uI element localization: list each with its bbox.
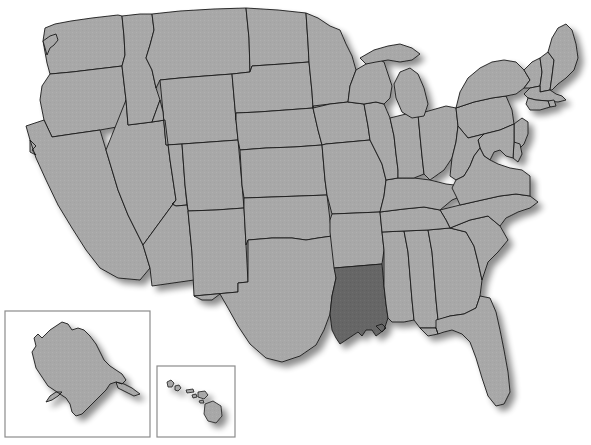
state-KS[interactable]	[240, 145, 327, 198]
us-choropleth-map	[0, 0, 591, 445]
hawaii-inset[interactable]	[157, 366, 235, 437]
state-WY[interactable]	[160, 74, 238, 145]
alaska-inset[interactable]	[5, 311, 150, 437]
hawaii-inset-frame	[157, 366, 235, 437]
state-AR[interactable]	[330, 212, 384, 268]
island-kahoolawe[interactable]	[199, 400, 204, 403]
state-CO[interactable]	[182, 140, 244, 211]
state-LA[interactable]	[330, 264, 388, 344]
state-IA[interactable]	[313, 102, 370, 145]
state-WA[interactable]	[43, 15, 125, 74]
island-lanai[interactable]	[192, 394, 197, 398]
state-NE[interactable]	[236, 108, 322, 150]
state-OR[interactable]	[40, 66, 128, 137]
island-molokai[interactable]	[186, 389, 194, 393]
map-svg	[0, 0, 591, 445]
